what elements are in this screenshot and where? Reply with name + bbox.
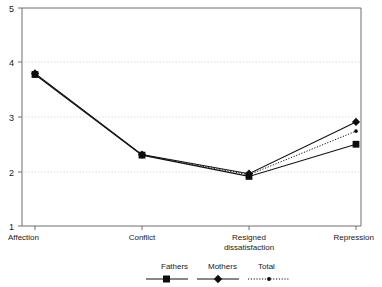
legend-key-mothers (197, 275, 239, 283)
legend-label-fathers: Fathers (161, 262, 188, 271)
datapoint-total-1 (140, 153, 144, 157)
y-tick-label-3: 3 (9, 113, 14, 123)
legend-key-total (248, 277, 290, 281)
series-line-fathers (35, 74, 356, 176)
series-line-total (35, 74, 356, 175)
datapoint-fathers-3 (353, 141, 360, 148)
y-tick-label-1: 1 (9, 222, 14, 232)
x-label-conflict: Conflict (129, 233, 156, 242)
x-label-affection: Affection (8, 233, 39, 242)
datapoint-total-3 (354, 129, 358, 133)
legend-key-fathers (146, 276, 188, 283)
datapoint-total-2 (247, 173, 251, 177)
gridlines (22, 62, 361, 172)
y-tick-marks (18, 8, 22, 226)
chart-canvas: 5 4 3 2 1 Affection Conflict Resigned di… (0, 0, 382, 287)
x-label-resigned-line1: Resigned (232, 233, 266, 242)
series-layer (31, 69, 360, 180)
line-chart: 5 4 3 2 1 Affection Conflict Resigned di… (0, 0, 382, 287)
x-label-repression: Repression (334, 233, 374, 242)
legend-marker-dot-icon (267, 277, 271, 281)
series-mothers (31, 69, 360, 177)
legend-label-total: Total (258, 262, 275, 271)
legend-marker-diamond-icon (214, 275, 222, 283)
legend-marker-square-icon (163, 276, 170, 283)
datapoint-mothers-3 (352, 118, 360, 126)
series-fathers (32, 71, 360, 180)
series-total (33, 72, 358, 176)
x-label-resigned-line2: dissatisfaction (224, 243, 274, 252)
y-tick-label-5: 5 (9, 4, 14, 14)
y-tick-label-2: 2 (9, 168, 14, 178)
y-tick-label-4: 4 (9, 58, 14, 68)
legend-label-mothers: Mothers (208, 262, 237, 271)
datapoint-total-0 (33, 72, 37, 76)
x-tick-marks (35, 226, 356, 230)
